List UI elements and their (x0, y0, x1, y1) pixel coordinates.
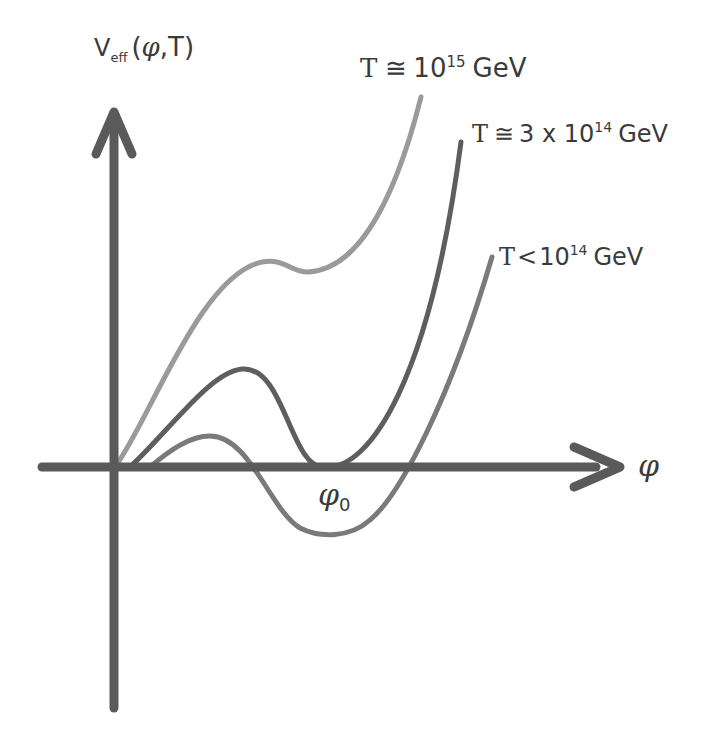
label-low-exp: 14 (570, 242, 588, 258)
curve-t-1e15 (115, 97, 421, 467)
label-mid-rel: ≅ (494, 120, 514, 148)
x-axis-label: φ (638, 448, 659, 483)
phi0-main: φ (318, 477, 339, 512)
y-label-sub: eff (110, 50, 128, 65)
y-label-open: ( (131, 32, 141, 62)
label-low-rel: < (517, 243, 537, 271)
phi0-sub: 0 (339, 494, 350, 515)
curve-t-3e14 (130, 142, 461, 467)
label-t-lt-1e14: T<1014GeV (499, 242, 644, 271)
label-top-exp: 15 (446, 53, 465, 71)
label-low-t: T (499, 243, 515, 271)
y-label-close: ,T) (160, 32, 194, 62)
label-low-base: 10 (539, 243, 570, 271)
y-label-v: V (94, 34, 111, 62)
y-label-phi: φ (142, 32, 161, 62)
label-mid-unit: GeV (618, 120, 668, 148)
phi0-label: φ0 (318, 477, 350, 515)
effective-potential-diagram: Veff(φ,T) φ φ0 T≅1015GeV T≅3 x 1014GeV T… (0, 0, 711, 747)
label-top-base: 10 (413, 53, 446, 83)
label-top-rel: ≅ (385, 53, 407, 83)
label-mid-exp: 14 (594, 119, 612, 135)
label-top-unit: GeV (473, 53, 527, 83)
label-t-3e14: T≅3 x 1014GeV (472, 119, 668, 148)
label-mid-base: 3 x 10 (519, 120, 594, 148)
label-top-t: T (360, 53, 378, 83)
label-t-1e15: T≅1015GeV (360, 53, 527, 83)
label-low-unit: GeV (594, 243, 644, 271)
y-axis (96, 112, 132, 708)
label-mid-t: T (472, 120, 488, 148)
y-axis-label: Veff(φ,T) (94, 32, 194, 65)
